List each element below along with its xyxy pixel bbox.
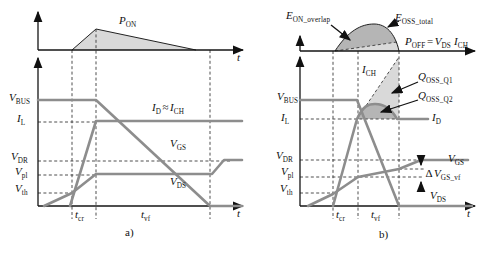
- label-vdr-b: VDR: [276, 150, 293, 164]
- label-vbus-b: VBUS: [277, 91, 298, 105]
- label-vpl-a: Vpl: [15, 166, 28, 180]
- caption-a: a): [125, 227, 134, 238]
- id-curve-b: [333, 104, 428, 206]
- label-poff-equation: POFF=VDSICH: [405, 36, 468, 50]
- label-t-main-b: t: [467, 208, 470, 219]
- label-vds-b: VDS: [430, 190, 446, 204]
- label-tvf-a: tvf: [141, 209, 150, 223]
- eon-overlap-arrow: [331, 25, 350, 40]
- label-vbus-a: VBUS: [9, 92, 30, 106]
- label-eoss-total: EOSS_total: [395, 12, 433, 26]
- label-ich: ICH: [362, 64, 376, 78]
- label-vdr-a: VDR: [11, 151, 28, 165]
- switching-waveform-figure: PON t VBUS ID≈ICH IL VGS VDR Vpl VDS Vth…: [0, 0, 493, 256]
- label-t-power-a: t: [237, 52, 240, 63]
- label-il-a: IL: [17, 113, 25, 127]
- caption-b: b): [379, 229, 388, 240]
- label-pon: PON: [119, 15, 137, 29]
- label-vgs-b: VGS: [448, 153, 464, 167]
- label-qoss-q1: QOSS_Q1: [418, 71, 453, 85]
- label-vth-a: Vth: [15, 183, 28, 197]
- label-id-approx-ich: ID≈ICH: [152, 102, 184, 116]
- label-eon-overlap: EON_overlap: [286, 10, 330, 24]
- label-vpl-b: Vpl: [281, 166, 294, 180]
- label-vds-a: VDS: [170, 176, 186, 190]
- label-vth-b: Vth: [280, 183, 293, 197]
- label-il-b: IL: [281, 112, 289, 126]
- label-t-main-a: t: [237, 208, 240, 219]
- label-id-b: ID: [432, 112, 441, 126]
- label-delta-vgs-vf: ΔVGS_vf: [424, 168, 461, 182]
- label-tcr-b: tcr: [336, 209, 345, 223]
- label-tvf-b: tvf: [371, 209, 380, 223]
- label-qoss-q2: QOSS_Q2: [418, 90, 453, 104]
- pon-energy-area: [72, 29, 196, 50]
- vds-curve-a: [38, 100, 242, 206]
- vgs-curve-a: [44, 160, 242, 206]
- label-tcr-a: tcr: [75, 209, 84, 223]
- label-vgs-a: VGS: [170, 138, 186, 152]
